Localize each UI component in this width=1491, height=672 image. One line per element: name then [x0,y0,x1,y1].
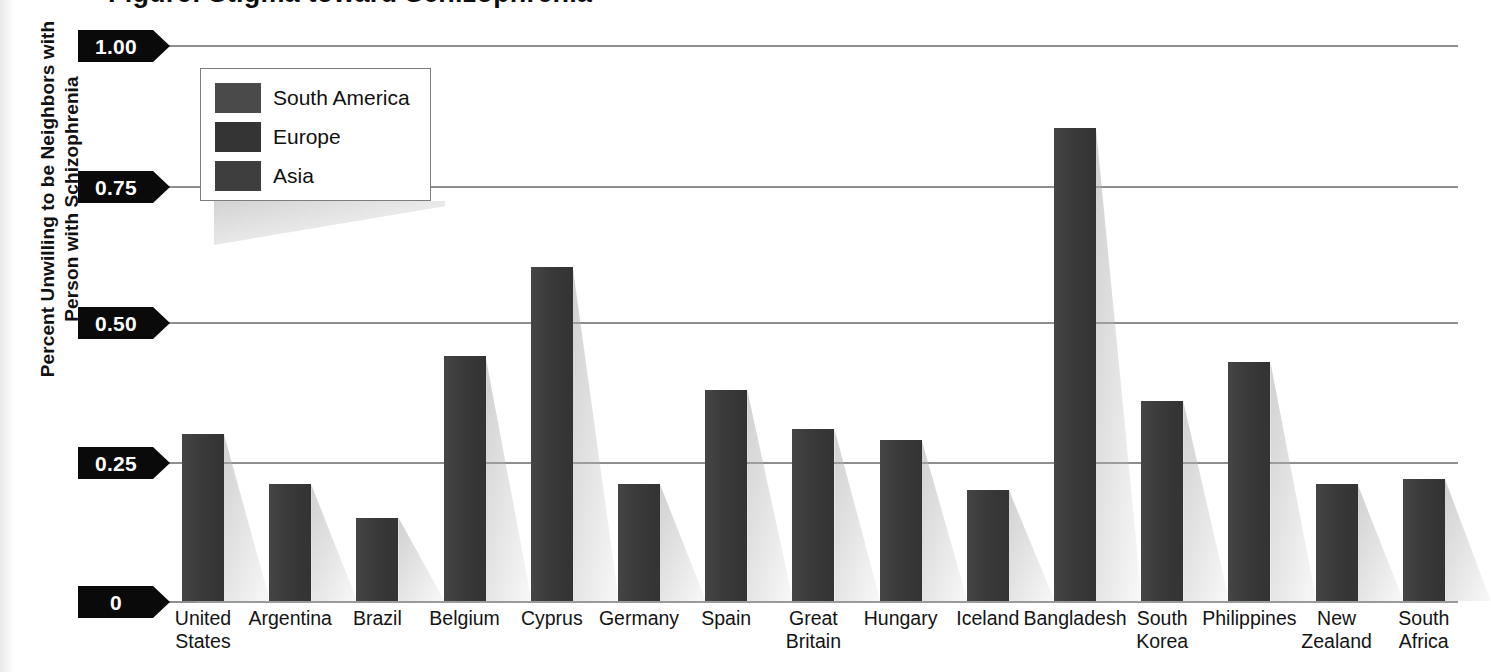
bar-shadow [834,429,880,601]
bar-rect [618,484,660,601]
bar-great-britain[interactable] [792,429,880,601]
bar-shadow [486,356,532,601]
bar-rect [182,434,224,601]
bar-rect [269,484,311,601]
bar-shadow [1445,479,1491,601]
bar-germany[interactable] [618,484,706,601]
legend-item-south-america[interactable]: South America [215,78,430,117]
bar-rect [1228,362,1270,601]
bar-iceland[interactable] [967,490,1055,601]
bar-philippines[interactable] [1228,362,1316,601]
bar-new-zealand[interactable] [1316,484,1404,601]
legend-label-europe: Europe [273,126,341,147]
x-axis-label-south-africa: SouthAfrica [1364,607,1484,653]
bar-bangladesh[interactable] [1054,128,1142,601]
bar-rect [444,356,486,601]
x-axis-label-line: Korea [1102,630,1222,653]
legend-swatch-south-america [215,83,261,113]
bar-rect [1403,479,1445,601]
legend[interactable]: South America Europe Asia [200,68,431,201]
legend-swatch-europe [215,122,261,152]
bar-brazil[interactable] [356,518,444,601]
bar-shadow [311,484,357,601]
x-axis-label-line: States [143,630,263,653]
bar-shadow [1358,484,1404,601]
legend-swatch-asia [215,161,261,191]
bar-shadow [1096,128,1142,601]
bar-rect [705,390,747,601]
bar-shadow [922,440,968,601]
bar-shadow [573,267,619,601]
legend-item-europe[interactable]: Europe [215,117,430,156]
bar-south-africa[interactable] [1403,479,1491,601]
legend-label-south-america: South America [273,87,410,108]
bar-hungary[interactable] [880,440,968,601]
bar-belgium[interactable] [444,356,532,601]
bar-rect [792,429,834,601]
x-axis-label-line: South [1364,607,1484,630]
bar-rect [356,518,398,601]
legend-label-asia: Asia [273,165,314,186]
bar-south-korea[interactable] [1141,401,1229,601]
bar-united-states[interactable] [182,434,270,601]
bar-shadow [747,390,793,601]
bar-rect [967,490,1009,601]
bar-rect [531,267,573,601]
bar-shadow [1183,401,1229,601]
bar-argentina[interactable] [269,484,357,601]
x-axis-label-line: Britain [753,630,873,653]
bar-spain[interactable] [705,390,793,601]
bar-shadow [1009,490,1055,601]
bar-rect [1316,484,1358,601]
bar-rect [880,440,922,601]
bar-shadow [398,518,444,601]
bar-shadow [660,484,706,601]
bar-shadow [224,434,270,601]
bar-rect [1054,128,1096,601]
bar-shadow [1270,362,1316,601]
x-axis-label-line: Africa [1364,630,1484,653]
bar-rect [1141,401,1183,601]
bar-cyprus[interactable] [531,267,619,601]
legend-item-asia[interactable]: Asia [215,156,430,195]
